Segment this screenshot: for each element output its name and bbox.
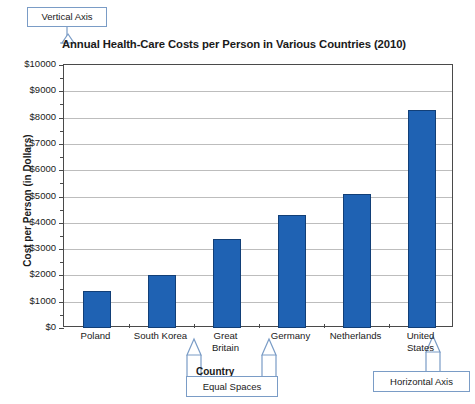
callout-horizontal-axis-label: Horizontal Axis bbox=[390, 377, 453, 387]
y-axis-tick-label: $7000 bbox=[30, 138, 56, 148]
callout-vertical-axis-label: Vertical Axis bbox=[41, 12, 92, 22]
x-axis-tick bbox=[259, 324, 260, 328]
y-axis-tick-label: $1000 bbox=[30, 296, 56, 306]
gridline bbox=[64, 302, 452, 303]
x-axis-tick bbox=[389, 324, 390, 328]
y-axis-tick-label: $3000 bbox=[30, 243, 56, 253]
x-axis-tick bbox=[129, 324, 130, 328]
gridline bbox=[64, 223, 452, 224]
gridline bbox=[64, 197, 452, 198]
y-axis-minor-tick bbox=[60, 236, 64, 237]
gridline bbox=[64, 170, 452, 171]
bar bbox=[278, 215, 306, 328]
bar bbox=[343, 194, 371, 328]
y-axis-minor-tick bbox=[60, 104, 64, 105]
y-axis-tick bbox=[59, 223, 64, 224]
y-axis-tick-labels: $0$1000$2000$3000$4000$5000$6000$7000$80… bbox=[0, 64, 60, 327]
chart-canvas: Vertical Axis Annual Health-Care Costs p… bbox=[0, 0, 475, 404]
y-axis-minor-tick bbox=[60, 183, 64, 184]
y-axis-tick-label: $10000 bbox=[24, 59, 56, 69]
x-axis-tick-label: Great Britain bbox=[193, 330, 258, 353]
y-axis-minor-tick bbox=[60, 210, 64, 211]
y-axis-tick bbox=[59, 65, 64, 66]
y-axis-tick bbox=[59, 118, 64, 119]
gridline bbox=[64, 144, 452, 145]
y-axis-tick bbox=[59, 170, 64, 171]
y-axis-tick-label: $0 bbox=[45, 322, 56, 332]
y-axis-tick bbox=[59, 328, 64, 329]
x-axis-tick-labels: PolandSouth KoreaGreat BritainGermanyNet… bbox=[63, 330, 453, 360]
bar bbox=[83, 291, 111, 328]
plot-area bbox=[63, 64, 453, 327]
y-axis-tick-label: $6000 bbox=[30, 164, 56, 174]
y-axis-tick bbox=[59, 144, 64, 145]
x-axis-tick-label: South Korea bbox=[128, 330, 193, 342]
callout-equal-spaces: Equal Spaces bbox=[186, 376, 278, 397]
chart-title: Annual Health-Care Costs per Person in V… bbox=[62, 38, 462, 50]
bar bbox=[213, 239, 241, 328]
y-axis-tick-label: $2000 bbox=[30, 269, 56, 279]
gridline bbox=[64, 118, 452, 119]
callout-vertical-axis: Vertical Axis bbox=[27, 7, 107, 27]
callout-equal-spaces-label: Equal Spaces bbox=[203, 382, 262, 392]
y-axis-minor-tick bbox=[60, 78, 64, 79]
y-axis-tick bbox=[59, 249, 64, 250]
bar bbox=[148, 275, 176, 328]
callout-horizontal-axis: Horizontal Axis bbox=[373, 371, 470, 392]
y-axis-minor-tick bbox=[60, 157, 64, 158]
y-axis-minor-tick bbox=[60, 289, 64, 290]
y-axis-tick bbox=[59, 275, 64, 276]
y-axis-tick-label: $8000 bbox=[30, 112, 56, 122]
y-axis-minor-tick bbox=[60, 315, 64, 316]
y-axis-tick bbox=[59, 197, 64, 198]
gridline bbox=[64, 249, 452, 250]
y-axis-tick-label: $4000 bbox=[30, 217, 56, 227]
gridline bbox=[64, 275, 452, 276]
x-axis-tick-label: Poland bbox=[63, 330, 128, 342]
x-axis-tick-label: United States bbox=[388, 330, 453, 353]
x-axis-tick bbox=[194, 324, 195, 328]
x-axis-tick-label: Germany bbox=[258, 330, 323, 342]
bar bbox=[408, 110, 436, 328]
y-axis-tick bbox=[59, 302, 64, 303]
x-axis-tick-label: Netherlands bbox=[323, 330, 388, 342]
x-axis-tick bbox=[324, 324, 325, 328]
y-axis-minor-tick bbox=[60, 262, 64, 263]
y-axis-minor-tick bbox=[60, 131, 64, 132]
y-axis-tick bbox=[59, 91, 64, 92]
gridline bbox=[64, 91, 452, 92]
y-axis-tick-label: $9000 bbox=[30, 85, 56, 95]
y-axis-tick-label: $5000 bbox=[30, 191, 56, 201]
